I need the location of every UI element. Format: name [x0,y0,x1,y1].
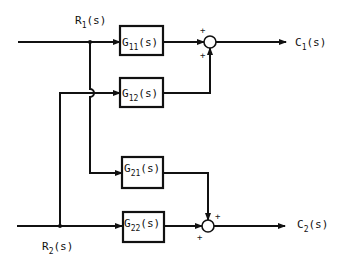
s1-sign-bottom: + [200,50,206,60]
block-diagram: G11(s) G12(s) G21(s) G22(s) R1(s) R2(s) … [0,0,342,268]
r1-branch-line [90,42,122,173]
summing-junction-2 [202,220,214,232]
s2-sign-right: + [215,211,221,221]
summing-junction-1 [204,36,216,48]
input-r2-label: R2(s) [42,240,73,256]
s2-sign-bottom: + [197,232,203,242]
r2-pickoff-dot [58,224,62,228]
r1-pickoff-dot [88,40,92,44]
input-r1-label: R1(s) [75,14,106,30]
g21-output-line [163,173,208,220]
output-c2-label: C2(s) [297,218,328,234]
output-c1-label: C1(s) [295,36,326,52]
s1-sign-top: + [200,25,206,35]
